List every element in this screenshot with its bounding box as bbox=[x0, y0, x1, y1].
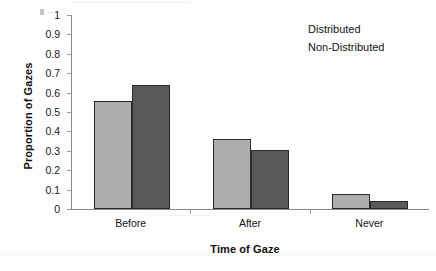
legend-entry-0: Distributed bbox=[308, 24, 384, 35]
bar bbox=[332, 194, 370, 209]
y-axis-tick-label: 0.2 bbox=[45, 165, 60, 176]
y-axis-line bbox=[71, 15, 72, 210]
y-axis-tick: 0.6 bbox=[67, 93, 71, 94]
bar-chart-figure: Proportion of Gazes 10.90.80.70.60.50.40… bbox=[0, 0, 436, 271]
y-axis-tick: 0.3 bbox=[67, 151, 71, 152]
scan-artifact bbox=[150, 215, 210, 216]
scan-artifact bbox=[70, 2, 190, 3]
y-axis-tick-label: 0.7 bbox=[45, 68, 60, 79]
x-axis-category-label: Before bbox=[115, 217, 146, 229]
y-axis-tick: 0.7 bbox=[67, 73, 71, 74]
y-axis-tick: 1 bbox=[67, 15, 71, 16]
bar bbox=[94, 101, 132, 209]
y-axis-tick-label: 0.4 bbox=[45, 126, 60, 137]
y-axis-tick: 0.2 bbox=[67, 170, 71, 171]
x-axis-category-label: Never bbox=[355, 217, 383, 229]
scan-artifact bbox=[48, 12, 53, 13]
y-axis-tick-label: 0.3 bbox=[45, 146, 60, 157]
scan-artifact bbox=[0, 255, 436, 256]
bar bbox=[370, 201, 408, 209]
legend: DistributedNon-Distributed bbox=[308, 24, 384, 53]
x-axis-title: Time of Gaze bbox=[60, 243, 430, 255]
bar bbox=[132, 85, 170, 209]
y-axis-tick-label: 0.5 bbox=[45, 107, 60, 118]
y-axis-tick: 0.4 bbox=[67, 131, 71, 132]
legend-entry-1: Non-Distributed bbox=[308, 42, 384, 53]
y-axis-tick: 0.9 bbox=[67, 34, 71, 35]
y-axis-tick-label: 0 bbox=[54, 204, 60, 215]
y-axis-tick-label: 0.8 bbox=[45, 49, 60, 60]
x-axis-tick bbox=[310, 209, 311, 214]
y-axis-tick: 0.5 bbox=[67, 112, 71, 113]
x-axis-line bbox=[71, 209, 429, 210]
y-axis-tick: 0 bbox=[67, 209, 71, 210]
y-axis-title: Proportion of Gazes bbox=[22, 31, 34, 201]
bar bbox=[213, 139, 251, 209]
y-axis-tick-label: 0.9 bbox=[45, 29, 60, 40]
y-axis-tick-label: 0.6 bbox=[45, 87, 60, 98]
y-axis-tick-label: 1 bbox=[54, 10, 60, 21]
y-axis-tick: 0.1 bbox=[67, 190, 71, 191]
bar bbox=[251, 150, 289, 209]
y-axis-tick-label: 0.1 bbox=[45, 184, 60, 195]
scan-artifact bbox=[40, 9, 44, 15]
y-axis-tick: 0.8 bbox=[67, 54, 71, 55]
x-axis-tick bbox=[190, 209, 191, 214]
x-axis-category-label: After bbox=[239, 217, 261, 229]
